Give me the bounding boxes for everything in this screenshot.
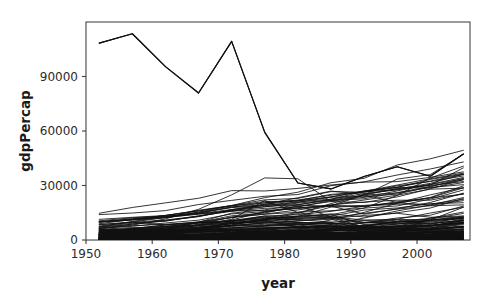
x-tick-label: 1990 (336, 247, 367, 261)
x-axis-title: year (261, 275, 295, 291)
x-tick-label: 1950 (71, 247, 102, 261)
x-tick-label: 1970 (203, 247, 234, 261)
x-tick-label: 1960 (137, 247, 168, 261)
x-tick-label: 1980 (269, 247, 300, 261)
y-tick-label: 0 (70, 233, 78, 247)
y-tick-label: 60000 (40, 124, 78, 138)
y-tick-label: 90000 (40, 70, 78, 84)
y-axis-title: gdpPercap (17, 90, 33, 172)
chart-figure: 195019601970198019902000 030000600009000… (0, 0, 495, 297)
y-tick-label: 30000 (40, 179, 78, 193)
x-tick-label: 2000 (402, 247, 433, 261)
gdp-per-capita-line-chart: 195019601970198019902000 030000600009000… (0, 0, 495, 297)
